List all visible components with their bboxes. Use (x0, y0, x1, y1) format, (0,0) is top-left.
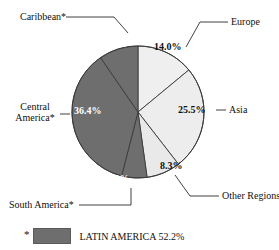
leader-line-caribbean (66, 17, 128, 33)
pie-value-central-america: 36.4% (74, 105, 102, 116)
pie-value-europe: 14.0% (154, 41, 182, 52)
pie-label-central-america-line1: Central (20, 101, 49, 112)
leader-line-south-america (79, 188, 131, 205)
pie-label-other-regions: Other Regions (222, 191, 279, 202)
pie-value-other-regions: 8.3% (160, 160, 183, 171)
legend-asterisk: * (24, 228, 30, 239)
pie-label-south-america: South America* (9, 200, 74, 211)
pie-value-south-america: 6.2% (107, 173, 130, 184)
pie-label-europe: Europe (231, 17, 260, 28)
pie-label-caribbean: Caribbean* (20, 12, 66, 23)
pie-label-asia: Asia (229, 105, 247, 116)
pie-value-caribbean: 9.6% (105, 38, 128, 49)
pie-label-central-america: Central America* (10, 102, 60, 123)
pie-value-asia: 25.5% (178, 104, 206, 115)
leader-line-europe (186, 22, 228, 47)
pie-chart-svg (0, 0, 279, 250)
leader-line-other-regions (175, 175, 219, 196)
pie-label-central-america-line2: America* (15, 112, 54, 123)
clipped-title-ghost (0, 0, 279, 1)
legend-color-swatch (33, 228, 71, 244)
legend: * LATIN AMERICA 52.2% (24, 228, 184, 244)
legend-label: LATIN AMERICA 52.2% (80, 231, 185, 242)
pie-chart-figure: Caribbean* Europe Asia Other Regions Cen… (0, 0, 279, 250)
